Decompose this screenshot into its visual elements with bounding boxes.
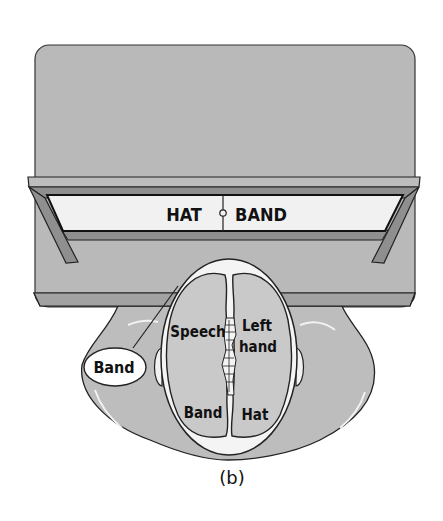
label-band-brain: Band [184, 404, 223, 422]
top-ledge [28, 177, 420, 187]
label-left: Left [242, 317, 273, 335]
projection-screen: HAT BAND [47, 195, 403, 231]
speech-bubble-text: Band [93, 358, 134, 377]
label-hand: hand [239, 338, 277, 356]
screen-right-word: BAND [235, 204, 287, 225]
label-hat-brain: Hat [242, 406, 269, 424]
panel-label: (b) [219, 467, 244, 488]
label-speech: Speech [170, 323, 225, 341]
screen-left-word: HAT [166, 204, 202, 225]
split-brain-diagram: HAT BAND Speech Left hand Band Hat Band [0, 0, 443, 521]
fixation-point-icon [220, 210, 226, 216]
